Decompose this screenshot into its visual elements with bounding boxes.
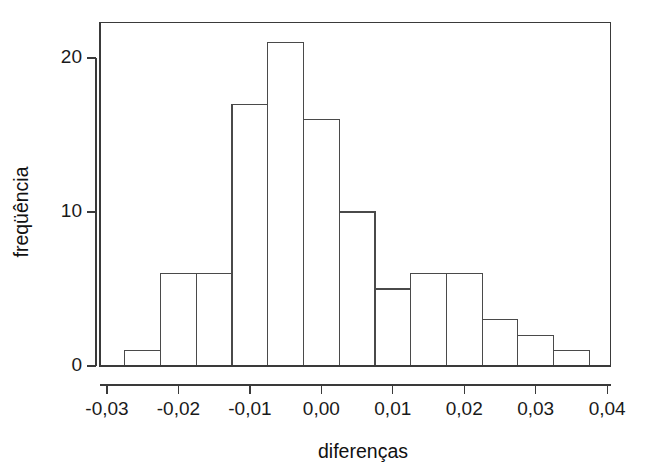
- y-axis-group: 01020: [61, 46, 96, 375]
- y-axis-title: freqüência: [10, 166, 32, 257]
- histogram-figure: -0,03-0,02-0,010,000,010,020,030,04 0102…: [0, 0, 647, 475]
- histogram-bar: [339, 212, 375, 366]
- y-axis-tick-label: 20: [61, 46, 82, 67]
- histogram-bar: [446, 274, 482, 366]
- x-axis-tick-label: 0,03: [517, 398, 554, 419]
- x-axis-tick-label: -0,02: [157, 398, 200, 419]
- x-axis-tick-label: 0,02: [446, 398, 483, 419]
- x-axis-group: -0,03-0,02-0,010,000,010,020,030,04: [85, 385, 626, 419]
- histogram-bar: [375, 289, 411, 366]
- bars-group: [125, 43, 589, 366]
- histogram-bar: [518, 335, 554, 366]
- histogram-plot: -0,03-0,02-0,010,000,010,020,030,04 0102…: [0, 0, 647, 475]
- y-axis-tick-label: 0: [71, 354, 82, 375]
- histogram-bar: [232, 104, 268, 366]
- x-axis-tick-label: 0,00: [303, 398, 340, 419]
- x-axis-tick-label: 0,04: [589, 398, 626, 419]
- x-axis-tick-label: -0,03: [85, 398, 128, 419]
- histogram-bar: [303, 120, 339, 366]
- histogram-bar: [125, 351, 161, 366]
- histogram-bar: [482, 320, 518, 366]
- histogram-bar: [196, 274, 232, 366]
- histogram-bar: [554, 351, 590, 366]
- histogram-bar: [268, 43, 304, 366]
- histogram-bar: [411, 274, 447, 366]
- y-axis-tick-label: 10: [61, 200, 82, 221]
- x-axis-tick-label: 0,01: [374, 398, 411, 419]
- histogram-bar: [161, 274, 197, 366]
- x-axis-tick-label: -0,01: [228, 398, 271, 419]
- x-axis-title: diferenças: [318, 440, 408, 462]
